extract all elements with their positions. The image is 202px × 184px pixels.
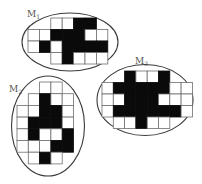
empty-cell (136, 71, 147, 83)
filled-cell (159, 71, 170, 83)
empty-cell (17, 105, 28, 117)
label-main: M (135, 56, 144, 66)
filled-cell (113, 106, 124, 118)
empty-cell (28, 94, 39, 106)
empty-cell (51, 94, 62, 106)
filled-cell (62, 30, 73, 42)
empty-cell (170, 83, 181, 95)
filled-cell (51, 117, 62, 129)
empty-cell (28, 152, 39, 164)
filled-cell (113, 83, 124, 95)
empty-cell (62, 18, 73, 30)
empty-cell (62, 94, 73, 106)
empty-cell (102, 106, 113, 118)
matrix-m2-grid (17, 82, 74, 164)
matrix-m1-label: M1 (27, 9, 40, 20)
empty-cell (40, 129, 51, 141)
empty-cell (28, 105, 39, 117)
filled-cell (74, 18, 85, 30)
empty-cell (96, 30, 107, 42)
filled-cell (51, 105, 62, 117)
matrix-m3-label: M3 (135, 56, 148, 67)
filled-cell (159, 106, 170, 118)
label-main: M (9, 84, 18, 94)
empty-cell (51, 152, 62, 164)
empty-cell (102, 94, 113, 106)
filled-cell (85, 41, 96, 53)
filled-cell (125, 94, 136, 106)
empty-cell (170, 94, 181, 106)
empty-cell (181, 83, 192, 95)
empty-cell (159, 94, 170, 106)
label-main: M (27, 9, 36, 19)
empty-cell (85, 30, 96, 42)
matrix-m2: M2 (9, 76, 85, 176)
empty-cell (85, 53, 96, 65)
empty-cell (147, 117, 158, 129)
empty-cell (17, 117, 28, 129)
empty-cell (159, 117, 170, 129)
empty-cell (62, 105, 73, 117)
filled-cell (159, 83, 170, 95)
filled-cell (125, 106, 136, 118)
matrix-diagram: M1 M2 M3 (0, 0, 202, 184)
label-subscript: 1 (36, 13, 40, 20)
filled-cell (28, 117, 39, 129)
empty-cell (113, 117, 124, 129)
filled-cell (136, 94, 147, 106)
filled-cell (136, 106, 147, 118)
empty-cell (51, 53, 62, 65)
filled-cell (136, 117, 147, 129)
filled-cell (170, 106, 181, 118)
filled-cell (62, 41, 73, 53)
filled-cell (74, 30, 85, 42)
matrix-m3: M3 (97, 56, 193, 136)
empty-cell (28, 30, 39, 42)
filled-cell (28, 129, 39, 141)
empty-cell (102, 83, 113, 95)
empty-cell (181, 106, 192, 118)
filled-cell (51, 30, 62, 42)
empty-cell (125, 117, 136, 129)
filled-cell (136, 83, 147, 95)
empty-cell (74, 53, 85, 65)
filled-cell (125, 83, 136, 95)
filled-cell (51, 141, 62, 153)
empty-cell (17, 129, 28, 141)
filled-cell (39, 41, 50, 53)
empty-cell (28, 41, 39, 53)
matrix-m1: M1 (22, 9, 118, 71)
filled-cell (125, 71, 136, 83)
filled-cell (40, 117, 51, 129)
filled-cell (147, 106, 158, 118)
filled-cell (147, 83, 158, 95)
empty-cell (51, 129, 62, 141)
label-subscript: 3 (144, 60, 148, 67)
empty-cell (40, 141, 51, 153)
empty-cell (62, 117, 73, 129)
filled-cell (40, 152, 51, 164)
empty-cell (147, 71, 158, 83)
filled-cell (96, 41, 107, 53)
empty-cell (28, 141, 39, 153)
filled-cell (147, 94, 158, 106)
label-subscript: 2 (18, 88, 22, 95)
empty-cell (39, 30, 50, 42)
matrix-m2-label: M2 (9, 84, 22, 95)
filled-cell (62, 141, 73, 153)
filled-cell (85, 18, 96, 30)
empty-cell (40, 82, 51, 94)
empty-cell (51, 82, 62, 94)
empty-cell (51, 18, 62, 30)
filled-cell (74, 41, 85, 53)
filled-cell (62, 129, 73, 141)
empty-cell (181, 94, 192, 106)
filled-cell (40, 94, 51, 106)
filled-cell (62, 53, 73, 65)
matrix-m1-grid (28, 18, 108, 64)
matrix-m3-grid (102, 71, 192, 129)
empty-cell (51, 41, 62, 53)
filled-cell (40, 105, 51, 117)
empty-cell (96, 53, 107, 65)
empty-cell (17, 141, 28, 153)
